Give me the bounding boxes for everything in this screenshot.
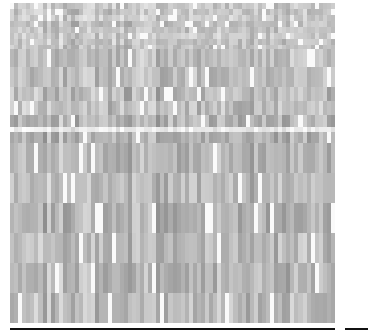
heatmap-row bbox=[10, 203, 335, 233]
heatmap-cell bbox=[331, 115, 335, 127]
heatmap-row bbox=[10, 143, 335, 173]
heatmap-cell bbox=[331, 233, 335, 263]
heatmap-row bbox=[10, 293, 335, 323]
heatmap-plot bbox=[10, 3, 335, 327]
x-axis-line bbox=[10, 328, 335, 330]
heatmap-row bbox=[10, 101, 335, 115]
heatmap-cell bbox=[331, 203, 335, 233]
heatmap-cell bbox=[331, 132, 335, 143]
heatmap-cell bbox=[331, 263, 335, 293]
heatmap-row bbox=[10, 263, 335, 293]
heatmap-row bbox=[10, 173, 335, 203]
heatmap-cell bbox=[331, 67, 335, 87]
colorbar-axis-line bbox=[345, 328, 368, 330]
heatmap-cell bbox=[331, 293, 335, 323]
heatmap-cell bbox=[331, 87, 335, 101]
heatmap-row bbox=[10, 115, 335, 127]
heatmap-cell bbox=[331, 173, 335, 203]
heatmap-cell bbox=[331, 49, 335, 67]
heatmap-row bbox=[10, 49, 335, 67]
heatmap-cell bbox=[331, 143, 335, 173]
heatmap-row bbox=[10, 67, 335, 87]
heatmap-row bbox=[10, 233, 335, 263]
heatmap-row bbox=[10, 132, 335, 143]
heatmap-row bbox=[10, 87, 335, 101]
heatmap-cell bbox=[331, 101, 335, 115]
